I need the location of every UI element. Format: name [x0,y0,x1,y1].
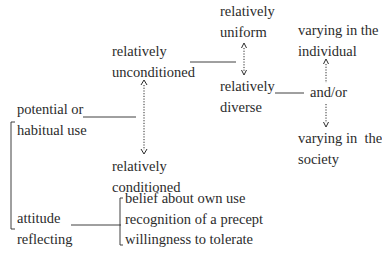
individual-arrow [324,59,329,83]
attitude-item: belief about own use [125,188,263,209]
attitude-items-bracket [120,198,123,245]
node-relatively-diverse: relatively diverse [220,76,275,118]
attitude-items-list: belief about own use recognition of a pr… [125,188,263,250]
conditioning-axis-arrow [141,80,147,154]
left-bracket [11,122,15,229]
society-arrow [324,104,329,127]
node-relatively-uniform: relatively uniform [220,1,275,43]
node-varying-society: varying in the society [298,128,382,170]
node-and-or: and/or [310,82,347,103]
node-attitude-reflecting: attitude reflecting [17,208,73,250]
node-varying-individual: varying in the individual [298,20,379,62]
node-relatively-unconditioned: relatively unconditioned [112,41,195,83]
attitude-item: recognition of a precept [125,209,263,230]
node-potential-habitual-use: potential or habitual use [17,99,87,141]
attitude-item: willingness to tolerate [125,229,263,250]
uniformity-axis-arrow [242,43,247,75]
